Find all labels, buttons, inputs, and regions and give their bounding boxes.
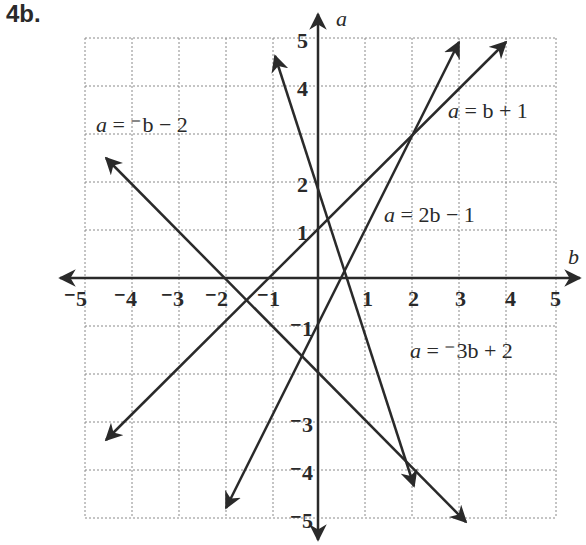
y-tick-labels: 5 4 2 1 ⁻1 ⁻3 ⁻4 ⁻5 xyxy=(290,28,313,533)
equation-label-2: a = b + 1 xyxy=(448,98,528,123)
svg-text:2: 2 xyxy=(297,172,308,197)
svg-text:1: 1 xyxy=(297,220,308,245)
svg-text:⁻1: ⁻1 xyxy=(257,286,280,311)
coordinate-plane: a b ⁻5 ⁻4 ⁻3 ⁻2 ⁻1 1 2 3 4 5 5 4 2 1 ⁻1 … xyxy=(0,0,586,545)
x-tick-labels: ⁻5 ⁻4 ⁻3 ⁻2 ⁻1 1 2 3 4 5 xyxy=(64,286,561,311)
svg-text:⁻3: ⁻3 xyxy=(161,286,184,311)
svg-text:5: 5 xyxy=(550,286,561,311)
equation-label-1: a = ⁻b − 2 xyxy=(96,112,188,137)
equation-label-3: a = 2b − 1 xyxy=(384,202,475,227)
svg-text:1: 1 xyxy=(362,286,373,311)
svg-text:⁻2: ⁻2 xyxy=(205,286,228,311)
svg-text:⁻4: ⁻4 xyxy=(290,460,313,485)
equation-label-4: a = ⁻3b + 2 xyxy=(410,338,513,363)
line-a-eq-2b-minus-1 xyxy=(226,42,459,508)
svg-text:⁻1: ⁻1 xyxy=(290,316,313,341)
svg-text:4: 4 xyxy=(297,76,308,101)
svg-text:⁻3: ⁻3 xyxy=(290,412,313,437)
svg-text:⁻5: ⁻5 xyxy=(290,508,313,533)
svg-text:5: 5 xyxy=(297,28,308,53)
svg-text:3: 3 xyxy=(455,286,466,311)
svg-text:4: 4 xyxy=(505,286,516,311)
svg-text:2: 2 xyxy=(408,286,419,311)
svg-text:⁻5: ⁻5 xyxy=(64,286,87,311)
svg-text:⁻4: ⁻4 xyxy=(114,286,137,311)
a-axis-label: a xyxy=(336,6,347,31)
b-axis-label: b xyxy=(568,244,579,269)
